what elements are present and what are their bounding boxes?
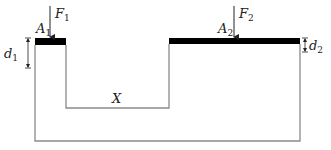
hydraulic-diagram: F1 A1 d1 F2 A2 d2 X: [0, 0, 331, 150]
container-outline: [35, 44, 300, 141]
displacement-d1-dimension: [25, 38, 31, 68]
label-d1: d1: [4, 46, 18, 63]
displacement-d2-dimension: [302, 38, 308, 52]
label-region-x: X: [111, 91, 122, 106]
left-piston: [35, 38, 66, 45]
right-piston: [169, 38, 300, 44]
label-d2: d2: [309, 38, 323, 55]
label-f2: F2: [238, 6, 254, 23]
label-a1: A1: [35, 21, 51, 38]
label-f1: F1: [54, 6, 70, 23]
label-a2: A2: [217, 21, 233, 38]
